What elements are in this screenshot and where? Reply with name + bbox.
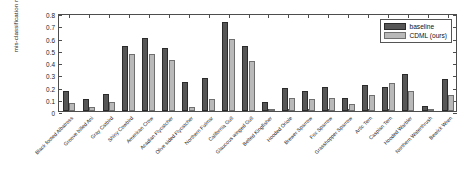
x-tick-mark-top [368,15,369,19]
x-tick-mark-top [308,15,309,19]
legend-item-baseline: baseline [384,22,448,31]
x-tick-mark-top [209,15,210,19]
y-tick-mark [59,52,63,53]
bar-baseline [142,38,148,111]
bar-baseline [342,98,348,111]
bar-cdml [249,61,255,111]
y-tick-mark [59,89,63,90]
bar-baseline [322,87,328,111]
bar-cdml [428,109,434,111]
bar-cdml [189,107,195,111]
x-tick-mark-top [348,15,349,19]
bar-baseline [402,74,408,111]
bar-baseline [442,79,448,111]
x-tick-mark-top [448,15,449,19]
y-tick-mark [59,64,63,65]
y-axis-label: mis-classification rates [12,0,24,69]
bar-cdml [349,104,355,111]
bar-chart-figure: mis-classification rates 00.10.20.30.40.… [0,0,476,185]
bar-cdml [169,60,175,111]
x-tick-mark-top [249,15,250,19]
y-tick-label: 0.2 [46,85,55,92]
y-tick-mark-right [453,89,457,90]
y-tick-mark [59,76,63,77]
bar-cdml [389,83,395,111]
bar-cdml [309,99,315,111]
x-tick-mark-top [328,15,329,19]
y-tick-mark [59,15,63,16]
plot-area: 00.10.20.30.40.50.60.70.8 baseline CDML … [58,14,457,112]
bar-cdml [369,95,375,111]
bar-baseline [362,85,368,111]
y-tick-mark [59,101,63,102]
x-tick-mark-top [229,15,230,19]
y-tick-label: 0.4 [46,61,55,68]
bar-cdml [109,102,115,111]
x-tick-mark-top [129,15,130,19]
x-tick-mark-top [89,15,90,19]
bar-baseline [122,46,128,111]
x-tick-mark-top [69,15,70,19]
bar-baseline [262,102,268,111]
y-tick-mark-right [453,27,457,28]
y-tick-mark-right [453,76,457,77]
y-tick-label: 0.5 [46,48,55,55]
bar-cdml [69,103,75,111]
y-tick-label: 0.3 [46,73,55,80]
bar-baseline [382,87,388,111]
light-gray-swatch-icon [384,32,406,39]
bar-cdml [408,91,414,111]
y-tick-mark-right [453,40,457,41]
y-tick-mark-right [453,64,457,65]
bar-baseline [63,91,69,111]
x-tick-mark-top [169,15,170,19]
bar-cdml [89,107,95,111]
bar-baseline [83,99,89,111]
x-tick-mark-top [408,15,409,19]
bar-baseline [242,46,248,111]
bar-baseline [182,82,188,111]
bar-baseline [302,91,308,111]
legend-label-cdml: CDML (ours) [410,32,448,39]
bar-baseline [162,48,168,111]
legend-item-cdml: CDML (ours) [384,31,448,40]
dark-gray-swatch-icon [384,23,406,30]
bar-baseline [202,78,208,111]
bar-baseline [422,106,428,112]
x-tick-mark-top [388,15,389,19]
x-tick-mark-top [189,15,190,19]
y-tick-mark-right [453,113,457,114]
bar-cdml [229,39,235,111]
x-tick-mark-top [428,15,429,19]
y-tick-mark [59,113,63,114]
y-tick-mark [59,40,63,41]
y-tick-label: 0.6 [46,36,55,43]
bar-baseline [222,22,228,111]
y-tick-label: 0.1 [46,97,55,104]
legend: baseline CDML (ours) [380,19,453,43]
y-tick-label: 0.8 [46,12,55,19]
bar-cdml [269,109,275,111]
bar-cdml [129,54,135,111]
x-tick-label: Grasshopper Sparrow [313,115,353,155]
x-tick-mark-top [109,15,110,19]
x-tick-mark-top [149,15,150,19]
y-tick-mark-right [453,52,457,53]
y-tick-label: 0.7 [46,24,55,31]
bar-cdml [209,99,215,111]
bar-cdml [448,95,454,111]
legend-label-baseline: baseline [410,23,435,30]
bar-baseline [103,94,109,111]
bar-cdml [329,98,335,111]
y-tick-label: 0 [51,110,55,117]
x-tick-mark-top [268,15,269,19]
y-tick-mark [59,27,63,28]
bar-cdml [289,98,295,111]
x-tick-mark-top [288,15,289,19]
bar-cdml [149,54,155,111]
y-tick-mark-right [453,15,457,16]
bar-baseline [282,88,288,111]
